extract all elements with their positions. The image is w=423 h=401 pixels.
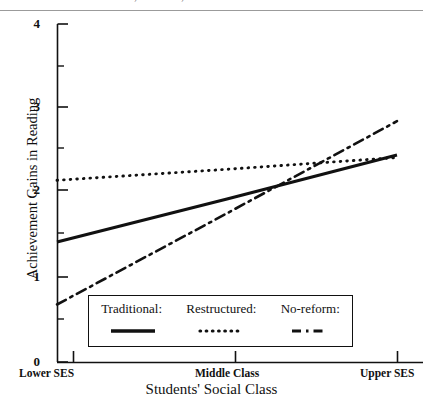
chart-legend: Traditional: Restructured: No-reform: <box>88 295 353 347</box>
legend-swatch-no-reform <box>282 326 334 336</box>
y-axis-title: Achievement Gains in Reading <box>24 74 41 304</box>
line-chart-figure: 4 3 2 1 0 Lower SES Middle Class Upper S… <box>0 0 423 401</box>
x-axis-ticks <box>74 351 398 362</box>
legend-label-no-reform: No-reform: <box>281 301 340 317</box>
y-tick-label-4: 4 <box>24 16 40 32</box>
series-line-no-reform <box>57 121 397 304</box>
legend-sample-row <box>89 326 352 336</box>
legend-label-restructured: Restructured: <box>186 301 256 317</box>
legend-swatch-traditional <box>107 326 159 336</box>
y-axis-major-ticks <box>58 24 69 362</box>
series-line-traditional <box>57 155 397 242</box>
legend-label-traditional: Traditional: <box>101 301 162 317</box>
x-tick-label-upper-ses: Upper SES <box>360 367 414 379</box>
x-tick-label-lower-ses: Lower SES <box>19 367 74 379</box>
x-axis-title: Students' Social Class <box>0 381 423 398</box>
y-axis-minor-ticks <box>58 66 65 319</box>
x-tick-label-middle-class: Middle Class <box>195 367 259 379</box>
legend-label-row: Traditional: Restructured: No-reform: <box>89 301 352 317</box>
legend-swatch-restructured <box>194 326 246 336</box>
